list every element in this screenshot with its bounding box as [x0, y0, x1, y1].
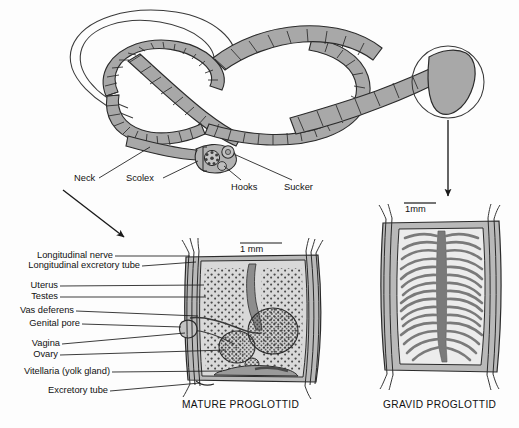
terminal-proglottid-shape [428, 50, 475, 114]
leader-genital-pore [82, 324, 181, 327]
genital-pore-papilla [180, 320, 198, 338]
scolex-head [195, 145, 236, 174]
label-ovary: Ovary [0, 350, 58, 359]
label-vas-deferens: Vas deferens [0, 306, 74, 315]
label-scolex: Scolex [126, 174, 154, 183]
caption-mature-proglottid: MATURE PROGLOTTID [182, 400, 299, 410]
tapeworm-anatomy-figure: Neck Scolex Hooks Sucker Longitudinal ne… [0, 0, 519, 428]
label-excretory-tube: Excretory tube [0, 386, 108, 395]
leader-excretory-tube [110, 383, 200, 391]
gravid-tube-flares-top [379, 204, 500, 219]
diagram-canvas [0, 0, 519, 428]
label-longitudinal-nerve: Longitudinal nerve [0, 251, 113, 260]
gravid-tube-flares-bottom [380, 374, 499, 390]
leader-vagina [62, 333, 185, 344]
label-vitellaria: Vitellaria (yolk gland) [0, 367, 110, 376]
label-uterus: Uterus [0, 281, 58, 290]
mature-scale-bar-label: 1 mm [240, 245, 263, 254]
label-vagina: Vagina [0, 339, 60, 348]
leader-scolex [163, 161, 198, 178]
label-neck: Neck [74, 174, 95, 183]
label-longitudinal-excretory-tube: Longitudinal excretory tube [0, 261, 140, 270]
leader-sucker [236, 155, 292, 180]
leader-uterus [60, 285, 204, 286]
label-testes: Testes [0, 292, 58, 301]
leader-vas-deferens [76, 311, 198, 316]
caption-gravid-proglottid: GRAVID PROGLOTTID [383, 400, 496, 410]
gravid-proglottid-drawing [379, 203, 501, 390]
strobila-segment-chain-terminal [290, 62, 451, 134]
label-hooks: Hooks [231, 183, 257, 192]
arrow-to-mature-proglottid [63, 190, 124, 237]
label-sucker: Sucker [284, 183, 313, 192]
strobila-whole-worm [70, 10, 484, 180]
label-genital-pore: Genital pore [0, 319, 80, 328]
gravid-scale-bar-label: 1mm [405, 205, 426, 214]
